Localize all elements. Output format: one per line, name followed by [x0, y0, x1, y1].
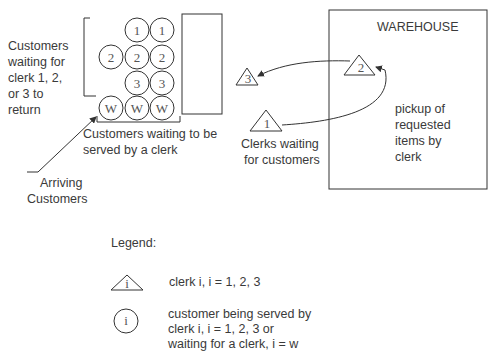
arriving-customers-label: Arriving Customers — [27, 176, 87, 206]
clerk-1-triangle: 1 — [250, 110, 282, 131]
svg-text:1: 1 — [264, 116, 271, 131]
legend-circle: i — [114, 309, 138, 333]
service-counter — [182, 14, 222, 114]
legend-triangle-text: clerk i, i = 1, 2, 3 — [169, 275, 260, 289]
svg-text:1: 1 — [159, 23, 166, 38]
svg-text:2: 2 — [108, 50, 115, 65]
svg-text:i: i — [124, 313, 128, 328]
customers-waiting-return-label: Customers waiting for clerk 1, 2, or 3 t… — [7, 39, 68, 117]
svg-text:2: 2 — [159, 50, 166, 65]
legend-triangle: i — [111, 275, 143, 291]
queue-label: Customers waiting to be served by a cler… — [83, 127, 217, 157]
svg-text:pickup of: pickup of — [395, 102, 446, 116]
svg-text:Customers: Customers — [8, 39, 68, 53]
svg-text:W: W — [131, 101, 144, 116]
svg-text:Customers waiting to be: Customers waiting to be — [83, 127, 217, 141]
svg-text:Customers: Customers — [27, 192, 87, 206]
svg-text:customer being served by: customer being served by — [168, 307, 312, 321]
svg-text:3: 3 — [159, 76, 166, 91]
svg-text:clerk i, i = 1, 2, 3 or: clerk i, i = 1, 2, 3 or — [168, 322, 274, 336]
svg-text:W: W — [105, 101, 118, 116]
customer-circles: 1 1 2 2 2 3 3 W W W — [99, 18, 174, 120]
clerk-3-triangle: 3 — [236, 68, 258, 86]
svg-text:Arriving: Arriving — [40, 176, 82, 190]
svg-text:return: return — [8, 103, 41, 117]
svg-text:served by a clerk: served by a clerk — [83, 143, 178, 157]
svg-text:waiting for: waiting for — [7, 55, 65, 69]
svg-text:1: 1 — [134, 23, 141, 38]
clerks-waiting-label: Clerks waiting for customers — [241, 137, 320, 167]
svg-text:2: 2 — [358, 60, 365, 75]
legend-title: Legend: — [111, 236, 156, 250]
svg-text:3: 3 — [134, 76, 141, 91]
svg-text:items by: items by — [395, 134, 442, 148]
svg-text:W: W — [156, 101, 169, 116]
svg-text:clerk: clerk — [395, 150, 422, 164]
svg-text:2: 2 — [134, 50, 141, 65]
queue-diagram: Customers waiting for clerk 1, 2, or 3 t… — [0, 0, 491, 360]
svg-text:for customers: for customers — [244, 153, 320, 167]
svg-text:waiting for a clerk, i = w: waiting for a clerk, i = w — [167, 337, 299, 351]
svg-text:Clerks waiting: Clerks waiting — [241, 137, 319, 151]
warehouse-title: WAREHOUSE — [377, 20, 459, 34]
legend-circle-text: customer being served by clerk i, i = 1,… — [167, 307, 312, 351]
svg-text:i: i — [125, 276, 129, 291]
svg-text:clerk 1, 2,: clerk 1, 2, — [8, 71, 62, 85]
left-bracket — [84, 18, 96, 96]
svg-text:or 3 to: or 3 to — [8, 87, 43, 101]
svg-text:3: 3 — [245, 71, 252, 86]
svg-text:requested: requested — [395, 118, 451, 132]
